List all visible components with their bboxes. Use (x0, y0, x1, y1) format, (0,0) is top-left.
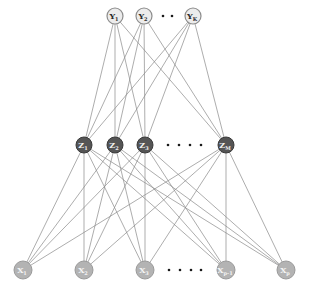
node-xp-1: Xp-1 (217, 261, 235, 279)
neural-network-diagram: Y1Y2YK Z1Z2Z3ZM X1X2X3Xp-1Xp (0, 0, 309, 288)
edge-ZM-Y2 (144, 16, 226, 145)
hidden-layer: Z1Z2Z3ZM (76, 137, 234, 153)
ellipsis-dot-icon (167, 144, 170, 147)
ellipsis-dot-icon (178, 144, 181, 147)
node-label-subscript: 3 (145, 270, 149, 276)
node-label-subscript: 1 (115, 16, 118, 22)
ellipsis-dot-icon (189, 144, 192, 147)
edge-XP-Z3 (145, 145, 286, 270)
ellipsis-dot-icon (179, 269, 182, 272)
node-x1: X1 (14, 261, 32, 279)
node-xp: Xp (277, 261, 295, 279)
node-yk: YK (185, 8, 201, 24)
edge-X2-Z2 (84, 145, 115, 270)
ellipsis-dot-icon (200, 144, 203, 147)
node-label-subscript: K (193, 16, 198, 22)
edge-Z1-Y2 (84, 16, 144, 145)
edge-Z1-Y1 (84, 16, 115, 145)
node-label-subscript: M (225, 145, 231, 151)
node-label-subscript: 2 (144, 16, 148, 22)
node-label-subscript: 1 (84, 145, 87, 151)
node-x2: X2 (75, 261, 93, 279)
node-y2: Y2 (136, 8, 152, 24)
edge-Z1-YK (84, 16, 193, 145)
node-label-subscript: 2 (115, 145, 119, 151)
node-label-subscript: 3 (145, 145, 149, 151)
node-label-subscript: 2 (84, 270, 88, 276)
node-zm: ZM (218, 137, 234, 153)
input-layer: X1X2X3Xp-1Xp (14, 261, 295, 279)
node-x3: X3 (136, 261, 154, 279)
ellipsis-dot-icon (190, 269, 193, 272)
ellipsis-dot-icon (171, 15, 174, 18)
node-label-subscript: p-1 (224, 270, 233, 277)
node-z2: Z2 (107, 137, 123, 153)
edge-Z3-Y2 (144, 16, 145, 145)
edge-X1-Z2 (23, 145, 115, 270)
edge-XP-1-Z2 (115, 145, 226, 270)
edge-Z3-YK (145, 16, 193, 145)
edge-Z2-YK (115, 16, 193, 145)
ellipsis-dot-icon (168, 269, 171, 272)
output-layer: Y1Y2YK (107, 8, 201, 24)
node-z3: Z3 (137, 137, 153, 153)
ellipsis-dot-icon (162, 15, 165, 18)
node-label-subscript: 1 (23, 270, 26, 276)
node-y1: Y1 (107, 8, 123, 24)
ellipsis-dot-icon (200, 269, 203, 272)
node-label-subscript: p (286, 270, 290, 277)
connection-edges (23, 16, 286, 270)
node-z1: Z1 (76, 137, 92, 153)
